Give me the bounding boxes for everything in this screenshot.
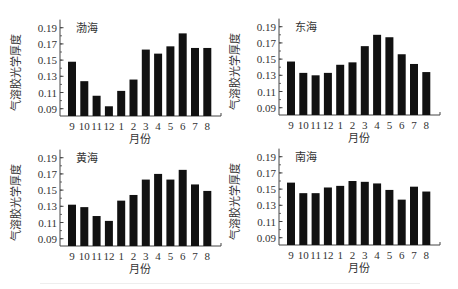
y-tick-label: 0.19: [38, 152, 58, 164]
x-tick-label: 6: [180, 120, 186, 132]
x-tick-label: 4: [155, 250, 161, 262]
x-tick-label: 10: [298, 249, 310, 261]
x-tick-label: 12: [103, 250, 114, 262]
x-axis-title: 月份: [129, 133, 151, 145]
y-tick-label: 0.09: [257, 102, 277, 114]
y-tick-label: 0.13: [38, 200, 58, 212]
bar: [349, 181, 357, 245]
bar: [349, 62, 357, 115]
x-tick-label: 5: [168, 250, 174, 262]
x-tick-label: 7: [192, 250, 198, 262]
bar: [336, 186, 344, 245]
x-tick-label: 5: [168, 120, 174, 132]
x-tick-label: 3: [143, 120, 149, 132]
x-tick-label: 11: [310, 249, 321, 261]
x-tick-label: 2: [350, 119, 356, 131]
x-tick-label: 2: [131, 250, 137, 262]
bar: [203, 48, 211, 116]
x-tick-label: 10: [298, 119, 310, 131]
bar: [93, 216, 101, 246]
x-tick-label: 4: [374, 119, 380, 131]
bar: [361, 46, 369, 115]
chart-panel: 0.090.110.130.150.170.19910111212345678南…: [228, 149, 440, 274]
x-tick-label: 8: [205, 250, 211, 262]
bar: [287, 62, 295, 115]
bar: [299, 73, 307, 115]
x-tick-label: 4: [374, 249, 380, 261]
y-tick-label: 0.11: [38, 217, 57, 229]
x-tick-label: 3: [362, 249, 368, 261]
bar: [154, 174, 162, 246]
bar: [422, 192, 430, 245]
x-axis-title: 月份: [348, 262, 370, 274]
panel-title: 南海: [295, 150, 317, 163]
bar: [191, 48, 199, 116]
bar: [80, 81, 88, 116]
bar: [105, 221, 113, 246]
x-tick-label: 9: [288, 249, 294, 261]
bar: [179, 170, 187, 246]
panel-title: 东海: [295, 20, 317, 33]
y-tick-label: 0.09: [38, 103, 58, 115]
bar: [130, 195, 138, 246]
x-tick-label: 12: [322, 119, 333, 131]
x-tick-label: 6: [180, 250, 186, 262]
bar: [80, 207, 88, 246]
y-tick-label: 0.09: [38, 233, 58, 245]
x-tick-label: 11: [310, 119, 321, 131]
y-tick-label: 0.11: [257, 216, 276, 228]
y-tick-label: 0.15: [38, 184, 58, 196]
x-tick-label: 1: [118, 120, 124, 132]
x-tick-label: 10: [79, 120, 91, 132]
x-tick-label: 10: [79, 250, 91, 262]
bar: [410, 64, 418, 115]
x-axis-title: 月份: [129, 263, 151, 275]
bar: [398, 54, 406, 115]
y-axis-title: 气溶胶光学厚度: [228, 163, 241, 240]
y-tick-label: 0.13: [38, 70, 58, 82]
chart-grid: 0.090.110.130.150.170.19910111212345678渤…: [0, 0, 458, 289]
x-tick-label: 9: [69, 120, 75, 132]
x-tick-label: 2: [131, 120, 137, 132]
x-tick-label: 7: [192, 120, 198, 132]
bar: [324, 73, 332, 115]
bar: [130, 80, 138, 116]
bar: [68, 205, 76, 246]
x-tick-label: 1: [337, 119, 343, 131]
bar: [398, 200, 406, 245]
x-tick-label: 2: [350, 249, 356, 261]
x-tick-label: 5: [387, 119, 393, 131]
x-tick-label: 4: [155, 120, 161, 132]
bar: [385, 190, 393, 245]
x-tick-label: 6: [399, 119, 405, 131]
bar: [154, 54, 162, 116]
chart-panel: 0.090.110.130.150.170.19910111212345678黄…: [9, 150, 221, 275]
y-tick-label: 0.19: [257, 151, 277, 163]
bar: [191, 184, 199, 246]
bar: [68, 62, 76, 116]
x-tick-label: 3: [143, 250, 149, 262]
chart-panel: 0.090.110.130.150.170.19910111212345678渤…: [9, 20, 221, 145]
y-tick-label: 0.11: [38, 87, 57, 99]
bar: [287, 183, 295, 245]
bar: [373, 35, 381, 115]
y-axis-title: 气溶胶光学厚度: [9, 34, 22, 111]
x-tick-label: 7: [411, 119, 417, 131]
y-tick-label: 0.15: [257, 53, 277, 65]
panel-title: 黄海: [76, 151, 98, 164]
y-tick-label: 0.11: [257, 86, 276, 98]
bar: [422, 72, 430, 115]
y-tick-label: 0.13: [257, 199, 277, 211]
y-tick-label: 0.19: [257, 21, 277, 33]
bar: [166, 46, 174, 116]
x-tick-label: 7: [411, 249, 417, 261]
y-tick-label: 0.17: [38, 168, 58, 180]
bar: [361, 182, 369, 245]
y-tick-label: 0.15: [257, 183, 277, 195]
x-axis-title: 月份: [348, 132, 370, 144]
bar: [117, 201, 125, 246]
x-tick-label: 3: [362, 119, 368, 131]
bar: [312, 75, 320, 115]
x-tick-label: 8: [424, 249, 430, 261]
y-tick-label: 0.19: [38, 22, 58, 34]
